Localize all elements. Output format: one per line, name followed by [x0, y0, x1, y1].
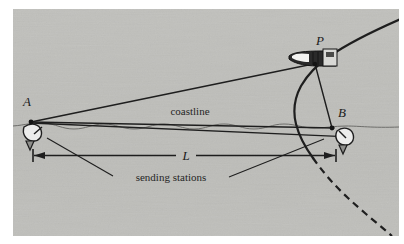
label-sending-stations: sending stations: [136, 171, 207, 183]
label-point-a: A: [22, 94, 31, 109]
navigation-diagram: A B P L coastline sending stations: [0, 0, 404, 244]
label-point-p: P: [315, 33, 324, 48]
point-b-marker: [330, 126, 335, 131]
label-baseline-length: L: [181, 148, 189, 163]
point-a-marker: [29, 120, 34, 125]
point-p-marker: [313, 62, 317, 66]
label-coastline: coastline: [170, 105, 209, 117]
label-point-b: B: [338, 105, 346, 120]
figure-root: A B P L coastline sending stations: [0, 0, 404, 244]
